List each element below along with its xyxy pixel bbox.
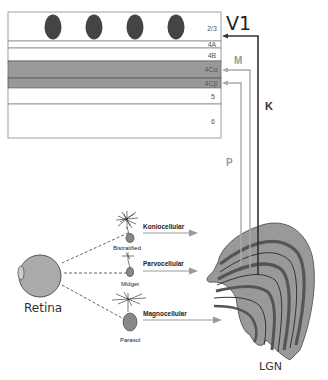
layer-4c-alpha	[8, 61, 221, 78]
m-label: M	[234, 55, 242, 66]
lgn-label: LGN	[259, 360, 282, 373]
layer-4b	[8, 48, 221, 61]
blob	[86, 15, 103, 40]
retina-eye	[18, 255, 61, 297]
m-arrowhead-icon	[222, 68, 228, 73]
bistratified-label: Bistratified	[113, 245, 141, 251]
parasol-cell	[112, 292, 146, 331]
bistratified-cell	[116, 211, 138, 243]
layer-2-3	[8, 12, 221, 41]
parvocellular-arrowhead-icon	[189, 268, 198, 275]
blob	[168, 15, 185, 40]
blob	[127, 15, 144, 40]
midget-cell	[122, 252, 134, 277]
parasol-label: Parasol	[120, 337, 140, 343]
layer-4a	[8, 41, 221, 48]
koniocellular-arrowhead-icon	[189, 230, 198, 237]
k-label: K	[265, 100, 273, 112]
p-label: P	[226, 157, 233, 168]
midget-label: Midget	[121, 281, 139, 287]
magnocellular-arrowhead-icon	[213, 317, 222, 324]
koniocellular-label: Koniocellular	[143, 223, 185, 230]
parvocellular-arrow: Parvocellular	[143, 260, 198, 275]
koniocellular-arrow: Koniocellular	[143, 223, 198, 237]
layer-4c-beta	[8, 78, 221, 88]
k-arrowhead-icon	[222, 34, 228, 39]
layer-label-4a: 4A	[208, 41, 217, 48]
layer-label-4b: 4B	[208, 52, 217, 59]
lgn-structure	[207, 223, 314, 360]
v1-cortex: 2/3 4A 4B 4Cα 4Cβ 5 6	[8, 12, 221, 138]
layer-label-4c-alpha: 4Cα	[205, 66, 218, 73]
retina-label: Retina	[24, 301, 62, 315]
layer-label-5: 5	[211, 93, 215, 100]
v1-title: V1	[226, 12, 251, 34]
blob	[45, 15, 62, 40]
layer-label-2-3: 2/3	[207, 25, 217, 32]
parvocellular-label: Parvocellular	[143, 260, 184, 267]
layer-6	[8, 104, 221, 138]
p-arrowhead-icon	[222, 81, 228, 86]
visual-pathway-diagram: 2/3 4A 4B 4Cα 4Cβ 5 6 V1 K M P	[0, 0, 328, 380]
magnocellular-label: Magnocellular	[143, 310, 187, 318]
layer-label-6: 6	[211, 118, 215, 125]
layer-label-4c-beta: 4Cβ	[205, 80, 218, 88]
layer-5	[8, 88, 221, 104]
magnocellular-arrow: Magnocellular	[143, 310, 222, 324]
